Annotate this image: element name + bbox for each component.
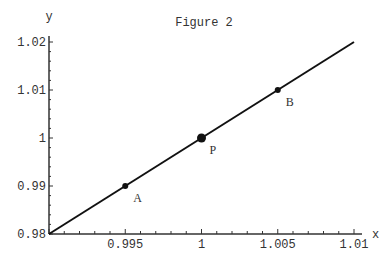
point-label: A xyxy=(133,191,142,205)
x-axis-label: x xyxy=(372,228,379,242)
x-tick-label: 0.995 xyxy=(107,238,143,252)
data-points: APB xyxy=(122,87,294,205)
point-p xyxy=(197,134,206,143)
y-tick-label: 1.01 xyxy=(17,84,46,98)
point-label: B xyxy=(286,95,294,109)
x-tick-label: 1.01 xyxy=(340,238,369,252)
y-tick-label: 0.99 xyxy=(17,180,46,194)
y-axis-label: y xyxy=(45,10,52,24)
chart-title: Figure 2 xyxy=(175,16,233,30)
x-ticks xyxy=(49,229,354,234)
y-tick-label: 0.98 xyxy=(17,228,46,242)
point-a xyxy=(122,183,128,189)
point-b xyxy=(275,87,281,93)
x-tick-labels: 0.99511.0051.01 xyxy=(107,238,368,252)
y-tick-label: 1.02 xyxy=(17,36,46,50)
x-tick-label: 1.005 xyxy=(260,238,296,252)
point-label: P xyxy=(210,143,217,157)
chart: Figure 2 y x 0.980.9911.011.02 0.99511.0… xyxy=(0,0,386,261)
y-ticks xyxy=(49,42,53,234)
x-tick-label: 1 xyxy=(198,238,205,252)
y-tick-label: 1 xyxy=(39,132,46,146)
y-tick-labels: 0.980.9911.011.02 xyxy=(17,36,46,242)
